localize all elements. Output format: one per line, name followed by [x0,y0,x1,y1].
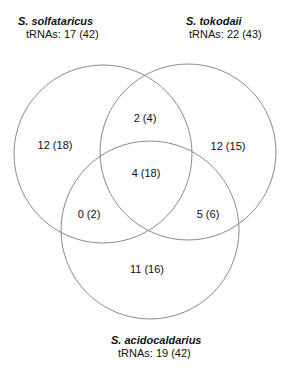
region-solfataricus-acidocaldarius: 0 (2) [78,208,101,220]
species-name: S. acidocaldarius [111,334,201,347]
trna-count: tRNAs: 22 (43) [186,28,262,41]
circle-tokodaii [100,64,276,240]
region-acidocaldarius-only: 11 (16) [130,263,164,275]
region-tokodaii-acidocaldarius: 5 (6) [197,208,220,220]
set-label-solfataricus: S. solfataricus tRNAs: 17 (42) [18,15,99,41]
trna-count: tRNAs: 19 (42) [111,347,201,360]
region-solfataricus-tokodaii: 2 (4) [134,112,157,124]
venn-diagram [0,0,296,370]
species-name: S. tokodaii [186,15,262,28]
set-label-acidocaldarius: S. acidocaldarius tRNAs: 19 (42) [111,334,201,360]
species-name: S. solfataricus [18,15,99,28]
region-tokodaii-only: 12 (15) [211,140,246,152]
trna-count: tRNAs: 17 (42) [18,28,99,41]
region-all-three: 4 (18) [132,167,161,179]
set-label-tokodaii: S. tokodaii tRNAs: 22 (43) [186,15,262,41]
region-solfataricus-only: 12 (18) [38,139,73,151]
